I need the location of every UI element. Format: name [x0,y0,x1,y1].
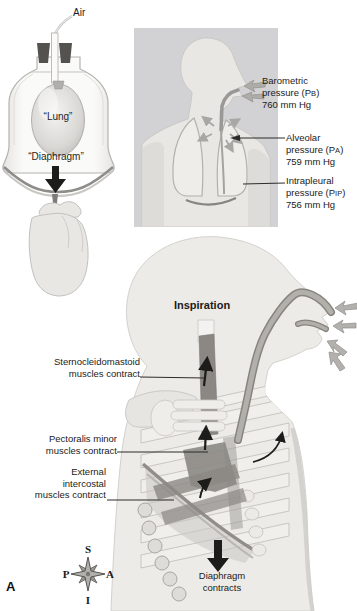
stopper-left [37,43,50,63]
diaphragm-contracts-label: Diaphragm contracts [187,570,257,593]
compass-letter-posterior: P [63,568,70,580]
compass-center [86,572,90,576]
pectoralis-minor-label: Pectoralis minor muscles contract [28,433,117,456]
compass-letter-inferior: I [86,594,90,606]
sheet-knot [52,194,58,203]
barometric-pressure-label: Barometric pressure (PB) 760 mm Hg [262,75,356,111]
right-arm-shading [248,149,270,227]
pressure-name: Alveolar [286,132,356,144]
pressure-value: 760 mm Hg [262,99,356,111]
compass-letter-superior: S [85,543,91,555]
glass-tube [52,33,59,83]
pressure-name: Barometric [262,75,356,87]
balloon-knot [53,81,64,89]
inspiration-figure-illustration [95,228,357,611]
hand-illustration [29,202,88,296]
pressure-name: Intrapleural [286,175,356,187]
sternocleidomastoid-label: Sternocleidomastoid muscles contract [28,356,140,379]
diaphragm-label: “Diaphragm” [14,151,98,163]
alveolar-pressure-label: Alveolar pressure (PA) 759 mm Hg [286,132,356,168]
stopper-right [59,43,72,63]
mouth-airflow-arrow-icon [242,92,264,102]
intrapleural-pressure-label: Intrapleural pressure (PIP) 756 mm Hg [286,175,356,211]
left-arm-shading [142,142,164,227]
air-tube [55,16,72,34]
pressure-value: 756 mm Hg [286,199,356,211]
pressure-value: 759 mm Hg [286,156,356,168]
figure-page: Air “Lung” “Diaphragm” [0,0,357,611]
air-label: Air [73,7,85,19]
lung-label: “Lung” [33,111,83,123]
figure-letter: A [6,579,15,594]
external-intercostal-label: External intercostal muscles contract [18,466,106,501]
compass-rose: S I P A [58,541,120,607]
hand-fingers [151,400,227,436]
compass-letter-anterior: A [106,568,114,580]
inspiration-title: Inspiration [160,300,244,312]
